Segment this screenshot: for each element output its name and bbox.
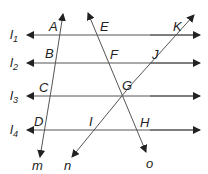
point-J: J — [151, 47, 159, 62]
point-C: C — [39, 80, 49, 95]
geometry-diagram: l1 l2 l3 l4 m n o A B C D E F G H I J K — [0, 0, 208, 174]
point-A: A — [48, 19, 58, 34]
label-l3: l3 — [10, 88, 18, 105]
point-K: K — [173, 19, 183, 34]
point-D: D — [34, 114, 43, 129]
label-m: m — [32, 158, 43, 173]
point-F: F — [110, 47, 119, 62]
label-l4: l4 — [10, 122, 18, 139]
label-n: n — [64, 158, 71, 173]
point-I: I — [89, 114, 93, 129]
label-l1: l1 — [10, 27, 18, 44]
point-H: H — [140, 115, 150, 130]
line-n-down — [72, 86, 130, 157]
point-E: E — [100, 19, 109, 34]
point-G: G — [122, 78, 132, 93]
label-l2: l2 — [10, 55, 18, 72]
point-B: B — [45, 46, 54, 61]
line-n-up — [130, 15, 194, 86]
label-o: o — [146, 156, 153, 171]
